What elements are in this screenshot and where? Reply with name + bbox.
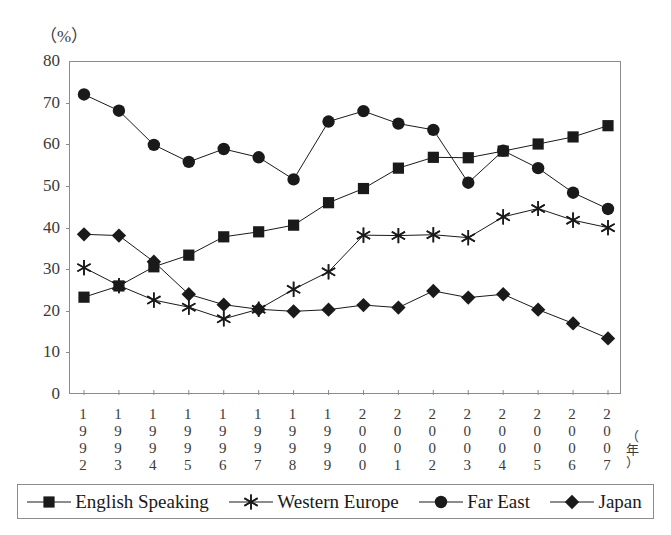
x-axis-label-digit: 0 xyxy=(419,440,445,457)
data-point-circle xyxy=(567,187,579,199)
x-axis-label-digit: 9 xyxy=(175,423,201,440)
x-axis-label-digit: 9 xyxy=(245,423,271,440)
x-axis-label-digit: 0 xyxy=(594,423,620,440)
x-axis-label-digit: 0 xyxy=(524,423,550,440)
x-axis-label-digit: 9 xyxy=(315,440,341,457)
x-axis-label-digit: 1 xyxy=(105,406,131,423)
x-axis-label-digit: 2 xyxy=(559,406,585,423)
x-axis-label-digit: 9 xyxy=(315,457,341,474)
x-axis-label-digit: 2 xyxy=(524,406,550,423)
x-axis-label-digit: 8 xyxy=(280,457,306,474)
x-axis-label-digit: 0 xyxy=(489,423,515,440)
legend-item-japan[interactable]: Japan xyxy=(550,491,643,513)
x-axis-label-digit: 0 xyxy=(559,440,585,457)
data-point-circle xyxy=(602,203,614,215)
x-axis-label-digit: 7 xyxy=(594,457,620,474)
data-point-square xyxy=(218,231,229,242)
x-axis-label-digit: 2 xyxy=(349,406,375,423)
data-point-star xyxy=(566,213,579,228)
x-axis-label-digit: 1 xyxy=(70,406,96,423)
data-point-circle xyxy=(218,143,230,155)
x-axis-tick-label: 1993 xyxy=(105,406,131,474)
x-axis-label-digit: 0 xyxy=(559,423,585,440)
x-axis-label-digit: 3 xyxy=(105,457,131,474)
x-axis-tick-label: 2006 xyxy=(559,406,585,474)
data-point-diamond xyxy=(531,302,545,316)
x-axis-label-digit: 4 xyxy=(140,457,166,474)
x-axis-tick-label: 1992 xyxy=(70,406,96,474)
x-axis-label-digit: 9 xyxy=(245,440,271,457)
legend-item-english-speaking[interactable]: English Speaking xyxy=(27,491,211,513)
data-point-circle xyxy=(183,156,195,168)
data-point-star xyxy=(77,260,90,275)
x-axis-label-digit: 9 xyxy=(175,440,201,457)
y-axis-tick-label: 10 xyxy=(20,343,60,360)
data-point-star xyxy=(532,201,545,216)
x-axis-tick-label: 1996 xyxy=(210,406,236,474)
series-line xyxy=(84,94,608,208)
data-point-star xyxy=(217,311,230,326)
data-point-circle xyxy=(427,124,439,136)
data-point-diamond xyxy=(321,302,335,316)
legend-item-far-east[interactable]: Far East xyxy=(419,491,532,513)
x-axis-label-digit: 9 xyxy=(105,423,131,440)
x-axis-unit-label: （年） xyxy=(621,430,643,469)
legend-item-label: Western Europe xyxy=(277,491,400,513)
data-point-circle xyxy=(497,144,509,156)
x-axis-tick-label: 2007 xyxy=(594,406,620,474)
data-point-diamond xyxy=(565,494,579,508)
data-point-square xyxy=(428,152,439,163)
x-axis-label-digit: 0 xyxy=(524,440,550,457)
plot-svg xyxy=(70,62,622,395)
data-point-star xyxy=(497,209,510,224)
x-axis-tick-label: 2002 xyxy=(419,406,445,474)
y-axis-tick-label: 40 xyxy=(20,219,60,236)
x-axis-label-digit: 9 xyxy=(280,423,306,440)
data-point-diamond xyxy=(601,331,615,345)
x-axis-label-digit: 0 xyxy=(349,440,375,457)
data-point-circle xyxy=(392,117,404,129)
data-point-diamond xyxy=(251,302,265,316)
data-point-diamond xyxy=(217,297,231,311)
data-point-star xyxy=(182,300,195,315)
x-axis-label-digit: 0 xyxy=(384,423,410,440)
x-axis-label-digit: 6 xyxy=(559,457,585,474)
x-axis-label-digit: 2 xyxy=(419,406,445,423)
y-axis-tick-label: 60 xyxy=(20,135,60,152)
x-axis-tick-label: 1998 xyxy=(280,406,306,474)
data-point-diamond xyxy=(426,284,440,298)
data-point-circle xyxy=(113,105,125,117)
x-axis-label-digit: 2 xyxy=(489,406,515,423)
x-axis-label-digit: 0 xyxy=(454,423,480,440)
x-axis-label-digit: 4 xyxy=(489,457,515,474)
x-axis-label-digit: 0 xyxy=(349,423,375,440)
plot-area xyxy=(69,61,621,394)
x-axis-tick-label: 1995 xyxy=(175,406,201,474)
x-axis-label-digit: 1 xyxy=(245,406,271,423)
star-marker-icon xyxy=(229,493,273,511)
y-axis-tick-label: 20 xyxy=(20,302,60,319)
legend-item-label: Far East xyxy=(467,491,532,513)
series-line xyxy=(84,234,608,338)
x-axis-label-digit: 3 xyxy=(454,457,480,474)
data-point-square xyxy=(393,163,404,174)
y-axis-tick-label: 80 xyxy=(20,52,60,69)
data-point-square xyxy=(358,183,369,194)
x-axis-label-digit: 1 xyxy=(210,406,236,423)
data-point-square xyxy=(567,131,578,142)
legend-item-western-europe[interactable]: Western Europe xyxy=(229,491,400,513)
data-point-circle xyxy=(435,495,447,507)
data-point-circle xyxy=(357,105,369,117)
x-axis-tick-label: 2003 xyxy=(454,406,480,474)
x-axis-label-digit: 9 xyxy=(140,423,166,440)
x-axis-label-digit: 0 xyxy=(594,440,620,457)
diamond-marker-icon xyxy=(550,493,594,511)
data-point-circle xyxy=(462,177,474,189)
data-point-circle xyxy=(532,162,544,174)
data-point-diamond xyxy=(566,316,580,330)
x-axis-label-digit: 9 xyxy=(315,423,341,440)
y-axis-unit-label: （%） xyxy=(40,22,88,47)
x-axis-label-digit: 5 xyxy=(524,457,550,474)
x-axis-label-digit: 6 xyxy=(210,457,236,474)
x-axis-tick-label: 1999 xyxy=(315,406,341,474)
